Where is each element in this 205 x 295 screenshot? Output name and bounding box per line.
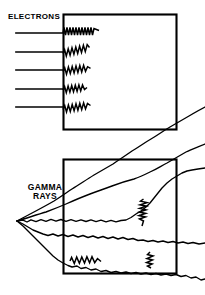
electron-squiggle xyxy=(63,103,91,112)
radiation-penetration-diagram: ELECTRONS GAMMA RAYS xyxy=(0,0,205,295)
gamma-rays-label: GAMMA RAYS xyxy=(19,183,71,201)
diagram-canvas xyxy=(0,0,205,295)
electrons-panel-group xyxy=(16,15,177,130)
gamma-absorber-box xyxy=(64,160,177,274)
electron-scatter-squiggles xyxy=(63,28,99,113)
electron-squiggle xyxy=(63,85,87,93)
gamma-interaction-squiggle-lower-left xyxy=(70,257,101,264)
gamma-interaction-squiggle-lower-right xyxy=(147,252,153,268)
electron-squiggle xyxy=(63,28,99,36)
electron-beam-lines xyxy=(16,33,64,107)
electron-squiggle xyxy=(63,45,90,57)
electron-squiggle xyxy=(63,65,91,74)
electrons-label: ELECTRONS xyxy=(8,13,60,21)
gamma-interaction-squiggles xyxy=(70,199,153,268)
gamma-interaction-squiggle-upper-right xyxy=(139,199,147,226)
